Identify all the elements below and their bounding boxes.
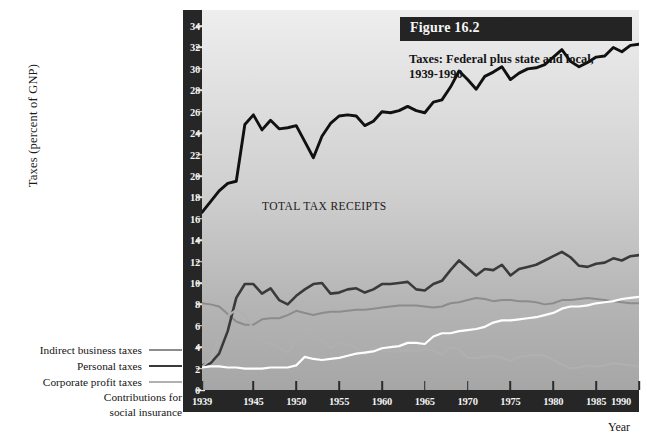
x-tick-mark <box>467 381 469 390</box>
figure-title-text: Taxes: Federal plus state and local,1939… <box>409 52 641 82</box>
x-tick-mark <box>595 381 597 390</box>
legend-item-label: Contributions forsocial insurance <box>0 390 182 419</box>
y-tick-label: 14 <box>160 235 200 246</box>
x-tick-label: 1939 <box>192 396 212 407</box>
y-tick-label: 34 <box>160 21 200 32</box>
x-tick-mark <box>510 381 512 390</box>
y-tick-label: 8 <box>160 299 200 310</box>
legend-item-swatch <box>149 349 182 351</box>
x-tick-label: 1950 <box>286 396 306 407</box>
series-line-contributions-for-social-insurance <box>202 297 639 369</box>
x-tick-label: 1955 <box>329 396 349 407</box>
legend-item-indirect-business-taxes[interactable]: Indirect business taxes <box>0 342 182 357</box>
x-tick-mark <box>553 381 555 390</box>
y-axis-tick-labels: 0246810121416182022242628303234 <box>160 10 200 390</box>
y-tick-label: 18 <box>160 192 200 203</box>
x-tick-mark <box>381 381 383 390</box>
y-tick-label: 24 <box>160 128 200 139</box>
x-tick-label: 1945 <box>243 396 263 407</box>
x-tick-mark <box>295 381 297 390</box>
legend-item-personal-taxes[interactable]: Personal taxes <box>0 358 182 373</box>
y-tick-label: 6 <box>160 320 200 331</box>
legend-item-swatch <box>149 381 182 383</box>
x-tick-mark <box>424 381 426 390</box>
y-tick-label: 16 <box>160 213 200 224</box>
x-tick-label: 1960 <box>372 396 392 407</box>
y-tick-label: 10 <box>160 277 200 288</box>
total-tax-receipts-annotation: TOTAL TAX RECEIPTS <box>262 200 387 212</box>
legend-item-corporate-profit-taxes[interactable]: Corporate profit taxes <box>0 374 182 389</box>
series-line-personal-taxes <box>202 252 639 365</box>
y-tick-label: 20 <box>160 170 200 181</box>
x-axis-tick-labels: 1939194519501955196019651970197519801985… <box>183 390 639 412</box>
x-tick-label: 1975 <box>500 396 520 407</box>
x-tick-mark <box>253 381 255 390</box>
x-tick-label: 1990 <box>611 396 631 407</box>
y-tick-label: 26 <box>160 106 200 117</box>
x-tick-mark <box>638 381 640 390</box>
legend-item-swatch <box>149 365 182 367</box>
x-tick-label: 1985 <box>586 396 606 407</box>
x-tick-mark <box>201 381 203 390</box>
chart-legend: Indirect business taxesPersonal taxesCor… <box>0 342 182 420</box>
y-tick-label: 22 <box>160 149 200 160</box>
y-tick-label: 32 <box>160 42 200 53</box>
figure-number-label: Figure 16.2 <box>410 20 480 36</box>
x-tick-label: 1965 <box>415 396 435 407</box>
y-tick-label: 28 <box>160 85 200 96</box>
series-line-indirect-business-taxes <box>202 298 639 325</box>
legend-item-label: Personal taxes <box>77 360 142 372</box>
x-axis-title: Year <box>608 420 630 435</box>
x-tick-label: 1970 <box>458 396 478 407</box>
legend-item-label: Corporate profit taxes <box>43 376 142 388</box>
legend-item-contributions-for-social-insurance[interactable]: Contributions forsocial insurance <box>0 390 182 419</box>
y-axis-title: Taxes (percent of GNP) <box>26 31 41 221</box>
y-tick-label: 12 <box>160 256 200 267</box>
x-tick-label: 1980 <box>543 396 563 407</box>
y-tick-label: 30 <box>160 63 200 74</box>
legend-item-label: Indirect business taxes <box>40 344 142 356</box>
x-tick-mark <box>338 381 340 390</box>
